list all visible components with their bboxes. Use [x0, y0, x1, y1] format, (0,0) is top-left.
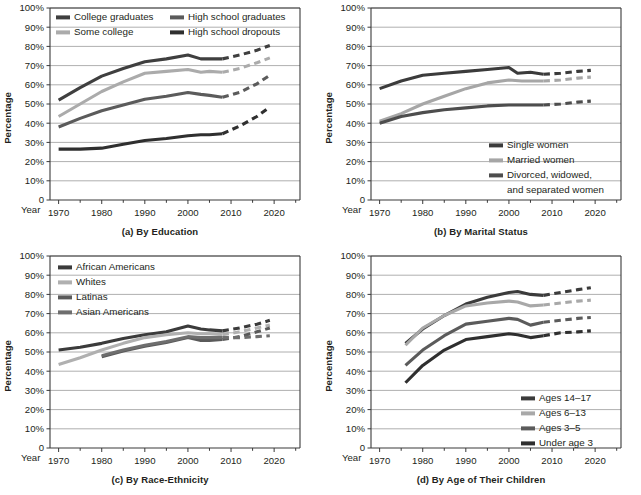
chart-b-legend-label: and separated women	[507, 184, 604, 195]
chart-b-ytick-label: 70%	[346, 60, 366, 71]
chart-panel-b-by-marital-status: 010%20%30%40%50%60%70%80%90%100% 1970198…	[321, 0, 641, 247]
chart-c-xticks: 197019801990200020102020	[48, 448, 296, 466]
chart-d-ytick-label: 20%	[346, 404, 366, 415]
chart-a-legend-label: Some college	[74, 26, 134, 37]
chart-c-ytick-label: 20%	[25, 404, 45, 415]
chart-c-legend-label: African Americans	[76, 261, 155, 272]
chart-a-legend: College graduatesHigh school graduatesSo…	[56, 11, 286, 37]
chart-b-xtick-label: 1970	[369, 207, 390, 218]
chart-d-ytick-label: 40%	[346, 366, 366, 377]
chart-a-xticks: 197019801990200020102020	[48, 200, 296, 218]
chart-a-legend-swatch	[56, 30, 70, 34]
chart-c-ytick-label: 100%	[19, 250, 44, 261]
chart-a-legend-swatch	[56, 15, 70, 19]
chart-b-legend-swatch	[489, 143, 503, 147]
chart-c-ytick-label: 30%	[25, 385, 45, 396]
chart-c-series-line-projected	[222, 336, 269, 338]
chart-a-ytick-label: 30%	[25, 137, 45, 148]
chart-d-xtick-label: 2020	[584, 455, 605, 466]
chart-a-svg: 010%20%30%40%50%60%70%80%90%100% 1970198…	[0, 0, 320, 247]
chart-a-ytick-label: 100%	[19, 2, 44, 13]
chart-d-legend-swatch	[521, 441, 535, 445]
chart-b-ytick-label: 60%	[346, 79, 366, 90]
figure-multi-panel-line-charts: 010%20%30%40%50%60%70%80%90%100% 1970198…	[0, 0, 641, 495]
chart-b-series-line-projected	[543, 77, 590, 81]
chart-a-ytick-label: 90%	[25, 22, 45, 33]
chart-d-series-line-projected	[543, 331, 590, 336]
chart-b-y-axis-title: Percentage	[323, 92, 334, 144]
chart-a-xtick-label: 2010	[220, 207, 241, 218]
chart-d-series-line-solid	[405, 334, 543, 383]
chart-d-xtick-label: 1970	[369, 455, 390, 466]
chart-a-series	[59, 45, 270, 149]
chart-c-legend-label: Latinas	[76, 291, 108, 302]
chart-c-ytick-label: 60%	[25, 327, 45, 338]
chart-b-xtick-label: 1980	[412, 207, 433, 218]
chart-b-year-label: Year	[342, 204, 362, 215]
chart-panel-c-by-race-ethnicity: 010%20%30%40%50%60%70%80%90%100% 1970198…	[0, 248, 320, 495]
chart-d-legend-label: Ages 3–5	[539, 422, 581, 433]
chart-c-ytick-label: 90%	[25, 270, 45, 281]
chart-a-xtick-label: 1970	[48, 207, 69, 218]
chart-d-ytick-label: 90%	[346, 270, 366, 281]
chart-a-caption: (a) By Education	[0, 226, 320, 237]
chart-a-yticks: 010%20%30%40%50%60%70%80%90%100%	[19, 2, 50, 205]
chart-d-series-line-projected	[543, 317, 590, 322]
chart-c-legend: African AmericansWhitesLatinasAsian Amer…	[58, 261, 155, 317]
chart-a-ytick-label: 10%	[25, 175, 45, 186]
chart-a-xtick-label: 2000	[177, 207, 198, 218]
chart-c-xtick-label: 2010	[220, 455, 241, 466]
chart-d-series-line-projected	[543, 300, 590, 305]
chart-b-svg: 010%20%30%40%50%60%70%80%90%100% 1970198…	[321, 0, 641, 247]
chart-c-yticks: 010%20%30%40%50%60%70%80%90%100%	[19, 250, 50, 453]
chart-c-ytick-label: 70%	[25, 308, 45, 319]
chart-b-legend: Single womenMarried womenDivorced, widow…	[489, 139, 604, 195]
chart-a-legend-swatch	[170, 30, 184, 34]
chart-b-legend-label: Divorced, widowed,	[507, 169, 592, 180]
chart-b-ytick-label: 20%	[346, 156, 366, 167]
chart-c-xtick-label: 2020	[263, 455, 284, 466]
chart-c-ytick-label: 80%	[25, 289, 45, 300]
chart-b-series-line-projected	[543, 70, 590, 74]
chart-a-series-line-projected	[222, 75, 269, 97]
chart-a-ytick-label: 20%	[25, 156, 45, 167]
chart-c-year-label: Year	[21, 452, 41, 463]
chart-b-legend-label: Married women	[507, 154, 575, 165]
chart-d-ytick-label: 50%	[346, 346, 366, 357]
chart-a-xtick-label: 1980	[91, 207, 112, 218]
chart-c-legend-swatch	[58, 280, 72, 284]
chart-a-xtick-label: 2020	[263, 207, 284, 218]
chart-d-gridlines	[371, 256, 621, 448]
chart-a-legend-swatch	[170, 15, 184, 19]
chart-d-caption: (d) By Age of Their Children	[321, 474, 641, 485]
chart-a-ytick-label: 60%	[25, 79, 45, 90]
chart-a-legend-label: High school dropouts	[188, 26, 280, 37]
chart-a-series-line-projected	[222, 45, 269, 58]
chart-panel-a-by-education: 010%20%30%40%50%60%70%80%90%100% 1970198…	[0, 0, 320, 247]
chart-b-ytick-label: 80%	[346, 41, 366, 52]
chart-c-legend-label: Asian Americans	[76, 306, 149, 317]
chart-b-xtick-label: 2010	[541, 207, 562, 218]
chart-b-ytick-label: 40%	[346, 118, 366, 129]
chart-b-ytick-label: 10%	[346, 175, 366, 186]
chart-c-series	[59, 320, 270, 364]
chart-c-ytick-label: 40%	[25, 366, 45, 377]
chart-c-caption: (c) By Race-Ethnicity	[0, 474, 320, 485]
chart-a-series-line-solid	[59, 134, 223, 149]
chart-d-legend-swatch	[521, 411, 535, 415]
chart-d-ytick-label: 80%	[346, 289, 366, 300]
chart-a-legend-label: College graduates	[74, 11, 154, 22]
chart-d-ytick-label: 100%	[340, 250, 365, 261]
chart-d-year-label: Year	[342, 452, 362, 463]
chart-c-legend-label: Whites	[76, 276, 106, 287]
chart-d-xtick-label: 2010	[541, 455, 562, 466]
chart-c-legend-swatch	[58, 310, 72, 314]
chart-b-xtick-label: 2020	[584, 207, 605, 218]
chart-b-legend-label: Single women	[507, 139, 569, 150]
chart-b-legend-swatch	[489, 173, 503, 177]
chart-a-y-axis-title: Percentage	[2, 92, 13, 144]
chart-b-ytick-label: 30%	[346, 137, 366, 148]
chart-b-series-line-solid	[380, 68, 544, 89]
chart-c-xtick-label: 1990	[134, 455, 155, 466]
chart-b-ytick-label: 90%	[346, 22, 366, 33]
